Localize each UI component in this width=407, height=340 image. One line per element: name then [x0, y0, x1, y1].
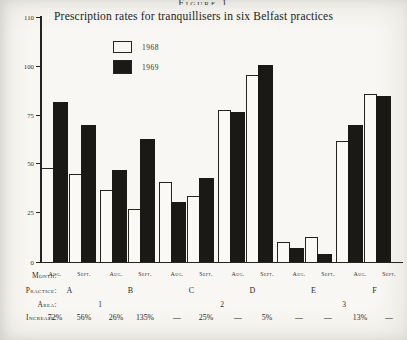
cell: D [224, 286, 281, 295]
scanned-figure-page: { "figure": { "caption": "Figure 1" }, "… [0, 0, 407, 340]
bar-pair-c-aug- [159, 182, 186, 262]
cell: 2 [163, 300, 281, 309]
y-tick-label-25: 25 [8, 209, 34, 216]
bar-pair-d-aug- [218, 110, 245, 262]
cell: Aug. [285, 271, 313, 277]
bar-1969 [81, 125, 96, 262]
bar-1969 [171, 202, 186, 262]
bar-pair-d-sept- [246, 65, 273, 262]
cell: Aug. [224, 271, 252, 277]
cell: A [41, 286, 98, 295]
cell: Aug. [163, 271, 191, 277]
y-tick-label-110: 110 [8, 14, 34, 21]
bar-pair-e-sept- [305, 237, 332, 262]
bar-pair-a-aug- [41, 102, 68, 262]
bar-plot-area [41, 0, 395, 262]
cell: 1 [41, 300, 159, 309]
row-values-month: Aug.Sept.Aug.Sept.Aug.Sept.Aug.Sept.Aug.… [41, 271, 407, 277]
cell: Sept. [131, 271, 159, 277]
y-tick-label-50: 50 [8, 160, 34, 167]
cell: 72% [41, 313, 69, 322]
bar-pair-e-aug- [277, 242, 304, 262]
bar-1969 [289, 248, 304, 262]
cell: Aug. [102, 271, 130, 277]
row-values-practice: ABCDEF [41, 286, 407, 295]
cell: B [102, 286, 159, 295]
cell: Sept. [253, 271, 281, 277]
cell: 56% [70, 313, 98, 322]
bar-pair-b-sept- [128, 139, 155, 262]
cell: 26% [102, 313, 130, 322]
bar-1969 [140, 139, 155, 262]
bar-pair-f-aug- [336, 125, 363, 262]
cell: Sept. [192, 271, 220, 277]
y-tick-label-0: 0 [8, 259, 34, 266]
cell: Aug. [41, 271, 69, 277]
cell: 13% [346, 313, 374, 322]
bar-1969 [112, 170, 127, 262]
cell: 25% [192, 313, 220, 322]
row-values-area: 123 [41, 300, 407, 309]
cell: 3 [285, 300, 403, 309]
cell: — [375, 313, 403, 322]
y-tick-label-75: 75 [8, 112, 34, 119]
cell: 135% [131, 313, 159, 322]
cell: E [285, 286, 342, 295]
cell: C [163, 286, 220, 295]
bar-1969 [199, 178, 214, 262]
cell: F [346, 286, 403, 295]
cell: Sept. [314, 271, 342, 277]
cell: — [224, 313, 252, 322]
bar-pair-a-sept- [69, 125, 96, 262]
bar-pair-f-sept- [364, 94, 391, 262]
cell: — [314, 313, 342, 322]
bar-1969 [376, 96, 391, 262]
cell: Aug. [346, 271, 374, 277]
bar-1969 [258, 65, 273, 262]
bar-pair-b-aug- [100, 170, 127, 262]
bar-1969 [348, 125, 363, 262]
bar-1969 [53, 102, 68, 262]
row-values-increase: 72%56%26%135%—25%—5%——13%— [41, 313, 407, 322]
y-tick-label-100: 100 [8, 63, 34, 70]
x-axis-baseline [38, 262, 403, 264]
cell: — [163, 313, 191, 322]
bar-1969 [230, 112, 245, 262]
cell: Sept. [70, 271, 98, 277]
cell: Sept. [375, 271, 403, 277]
bar-pair-c-sept- [187, 178, 214, 262]
cell: — [285, 313, 313, 322]
cell: 5% [253, 313, 281, 322]
